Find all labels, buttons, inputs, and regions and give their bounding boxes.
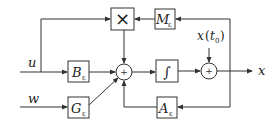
input-u-label: u — [28, 55, 36, 70]
G-to-sum-arrow — [89, 78, 118, 105]
M-block-subscript: ε — [168, 21, 172, 29]
initial-condition-label: x ( t 0 ) — [197, 29, 225, 45]
multiply-icon: × — [115, 8, 130, 29]
svg-text:(: ( — [205, 29, 210, 43]
svg-text:0: 0 — [215, 37, 219, 45]
svg-text:x: x — [197, 29, 204, 43]
block-diagram: u w B ε G ε × + ∫ + x ( t 0 ) x M ε — [0, 0, 278, 128]
A-block-label: A — [158, 101, 168, 116]
A-to-sum-arrow — [124, 81, 157, 107]
G-block-subscript: ε — [82, 110, 86, 118]
sum2-plus-icon: + — [205, 66, 213, 76]
feedback-to-M-arrow — [176, 19, 230, 71]
integral-icon: ∫ — [163, 64, 170, 80]
G-block-label: G — [71, 101, 81, 116]
sum1-plus-icon: + — [120, 67, 128, 77]
input-w-label: w — [28, 91, 39, 106]
svg-text:): ) — [220, 29, 225, 43]
B-block-label: B — [71, 65, 82, 80]
output-x-label: x — [258, 63, 266, 78]
B-block-subscript: ε — [82, 74, 86, 82]
A-block-subscript: ε — [169, 110, 173, 118]
